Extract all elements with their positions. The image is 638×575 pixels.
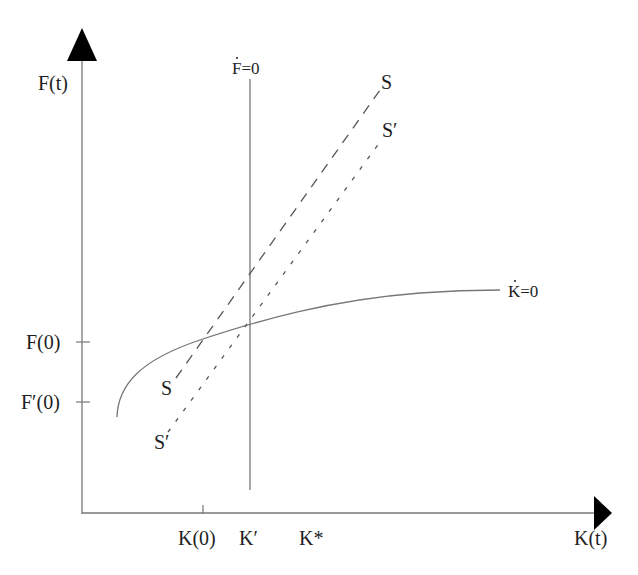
x-tick-label-k0: K(0) <box>178 528 216 548</box>
x-tick-label-k-star: K* <box>299 528 323 548</box>
s-prime-label-bottom: S′ <box>154 432 170 452</box>
k-dot-zero-label: K=0 <box>508 283 538 300</box>
phase-diagram <box>0 0 638 575</box>
y-axis-arrow-icon <box>67 28 97 61</box>
x-axis-arrow-icon <box>594 496 612 530</box>
x-axis-label: K(t) <box>574 528 607 548</box>
y-axis-label: F(t) <box>38 73 68 93</box>
f-dot-zero-label: F=0 <box>232 60 260 77</box>
s-prime-label-top: S′ <box>382 120 398 140</box>
y-tick-label-f0: F(0) <box>26 332 60 352</box>
s-label-top: S <box>381 72 392 92</box>
x-tick-label-k-prime: K′ <box>239 528 258 548</box>
s-prime-line <box>168 142 380 432</box>
s-label-bottom: S <box>161 378 172 398</box>
k-dot-zero-curve <box>117 290 500 417</box>
s-line <box>176 90 380 378</box>
y-tick-label-f-prime-0: F′(0) <box>21 392 60 412</box>
